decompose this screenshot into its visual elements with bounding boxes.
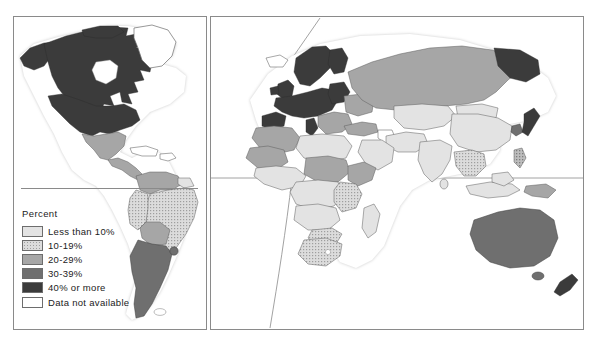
legend-label-20-29: 20-29% xyxy=(48,254,83,265)
legend-label-10-19: 10-19% xyxy=(48,240,83,251)
map-legend: Percent Less than 10% 10-19% 20-29% 30-3… xyxy=(22,208,182,309)
legend-swatch-10-19 xyxy=(22,240,43,251)
legend-swatch-30-39 xyxy=(22,268,43,279)
legend-label-40up: 40% or more xyxy=(48,282,106,293)
legend-label-lt10: Less than 10% xyxy=(48,226,115,237)
legend-swatch-lt10 xyxy=(22,226,43,237)
legend-label-30-39: 30-39% xyxy=(48,268,83,279)
legend-swatch-20-29 xyxy=(22,254,43,265)
legend-swatch-40up xyxy=(22,282,43,293)
legend-item-20-29: 20-29% xyxy=(22,252,182,266)
legend-item-30-39: 30-39% xyxy=(22,267,182,281)
legend-item-nodata: Data not available xyxy=(22,295,182,309)
eurasia-africa-oceania-panel xyxy=(210,16,584,330)
legend-item-lt10: Less than 10% xyxy=(22,224,182,238)
legend-swatch-nodata xyxy=(22,297,43,308)
figure-canvas: Percent Less than 10% 10-19% 20-29% 30-3… xyxy=(0,0,597,344)
legend-label-nodata: Data not available xyxy=(48,297,129,308)
legend-item-10-19: 10-19% xyxy=(22,238,182,252)
legend-item-40up: 40% or more xyxy=(22,281,182,295)
legend-title: Percent xyxy=(22,208,182,219)
